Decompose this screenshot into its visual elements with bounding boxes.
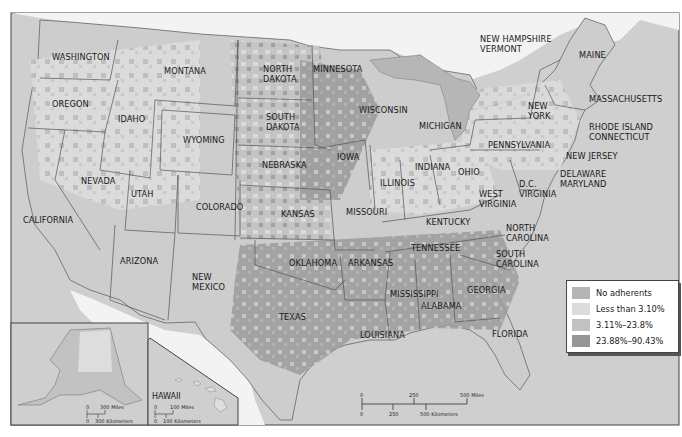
legend-item-low: Less than 3.10% — [572, 301, 673, 317]
alaska-scale-miles-zero: 0 — [86, 404, 89, 410]
state-label: DAKOTA — [263, 74, 297, 84]
state-label: YORK — [527, 111, 551, 121]
state-label: MASSACHUSETTS — [589, 94, 662, 104]
state-label: MICHIGAN — [419, 121, 462, 131]
state-label: NEVADA — [81, 176, 116, 186]
state-label: DELAWARE — [560, 169, 606, 179]
legend-item-high: 23.88%–90.43% — [572, 333, 673, 349]
legend-item-no-adherents: No adherents — [572, 285, 673, 301]
state-label: NEW — [528, 101, 548, 111]
state-label: MINNESOTA — [313, 64, 363, 74]
state-label: RHODE ISLAND — [589, 122, 653, 132]
legend-swatch — [572, 287, 590, 299]
state-label: WEST — [479, 189, 504, 199]
hawaii-scale-km-max: 100 Kilometers — [163, 418, 201, 424]
state-label: MARYLAND — [560, 179, 606, 189]
legend-item-mid: 3.11%–23.8% — [572, 317, 673, 333]
state-label: MONTANA — [164, 66, 206, 76]
state-label: NEW HAMPSHIRE — [480, 34, 552, 44]
state-label: CAROLINA — [496, 259, 539, 269]
state-label: GEORGIA — [467, 285, 506, 295]
state-label: NORTH — [263, 64, 292, 74]
state-label: CONNECTICUT — [589, 132, 650, 142]
hawaii-scale-km-zero: 0 — [154, 418, 157, 424]
state-label: OHIO — [458, 167, 480, 177]
alaska-scale-km-zero: 0 — [86, 418, 89, 424]
state-label: IDAHO — [118, 114, 145, 124]
state-label: VIRGINIA — [519, 189, 557, 199]
hawaii-scale-miles-zero: 0 — [154, 404, 157, 410]
state-label: VERMONT — [480, 44, 523, 54]
state-label: TEXAS — [278, 312, 306, 322]
state-label: MAINE — [579, 50, 606, 60]
state-label: ILLINOIS — [380, 178, 415, 188]
scale-miles-250: 250 — [409, 392, 419, 398]
state-label: FLORIDA — [492, 329, 528, 339]
state-label: LOUISIANA — [360, 330, 405, 340]
state-label: WASHINGTON — [52, 52, 110, 62]
state-label: NEW JERSEY — [566, 151, 619, 161]
alaska-scale-km-max: 300 Kilometers — [95, 418, 133, 424]
alaska-inset: 0 300 Miles 0 300 Kilometers — [11, 323, 148, 425]
state-label: VIRGINIA — [479, 199, 517, 209]
scale-km-250: 250 — [389, 411, 399, 417]
state-label: SOUTH — [266, 112, 295, 122]
state-label: NEW — [192, 272, 212, 282]
hawaii-label: HAWAII — [152, 392, 181, 401]
legend-swatch — [572, 335, 590, 347]
state-label: OREGON — [52, 99, 89, 109]
state-label: DAKOTA — [266, 122, 300, 132]
state-label: INDIANA — [415, 162, 451, 172]
alaska-scale-miles-max: 300 Miles — [100, 404, 124, 410]
state-label: WYOMING — [183, 135, 225, 145]
state-label: ARKANSAS — [348, 258, 393, 268]
state-label: ALABAMA — [421, 301, 462, 311]
state-label: KANSAS — [281, 209, 315, 219]
state-label: MISSOURI — [346, 207, 387, 217]
scale-km-500: 500 Kilometers — [420, 411, 458, 417]
state-label: MEXICO — [192, 282, 225, 292]
state-label: KENTUCKY — [426, 217, 471, 227]
state-label: MISSISSIPPI — [390, 289, 439, 299]
hawaii-scale-miles-max: 100 Miles — [170, 404, 194, 410]
state-label: WISCONSIN — [359, 105, 408, 115]
state-label: ARIZONA — [120, 256, 158, 266]
state-label: SOUTH — [496, 249, 525, 259]
scale-miles-0: 0 — [360, 392, 363, 398]
map-legend: No adherents Less than 3.10% 3.11%–23.8%… — [566, 280, 679, 353]
state-label: CAROLINA — [506, 233, 549, 243]
state-label: PENNSYLVANIA — [488, 140, 551, 150]
state-label: TENNESSEE — [410, 243, 460, 253]
state-label: NEBRASKA — [262, 160, 307, 170]
scale-km-0: 0 — [360, 411, 363, 417]
scale-miles-500: 500 Miles — [460, 392, 484, 398]
state-label: IOWA — [337, 152, 360, 162]
state-label: CALIFORNIA — [23, 215, 74, 225]
state-label: NORTH — [506, 223, 535, 233]
us-county-map: 0 300 Miles 0 300 Kilometers HAWAII 0 10… — [0, 0, 682, 437]
state-label: COLORADO — [196, 202, 243, 212]
state-label: D.C. — [519, 179, 537, 189]
legend-swatch — [572, 303, 590, 315]
state-label: UTAH — [131, 189, 154, 199]
state-label: OKLAHOMA — [289, 258, 338, 268]
legend-swatch — [572, 319, 590, 331]
